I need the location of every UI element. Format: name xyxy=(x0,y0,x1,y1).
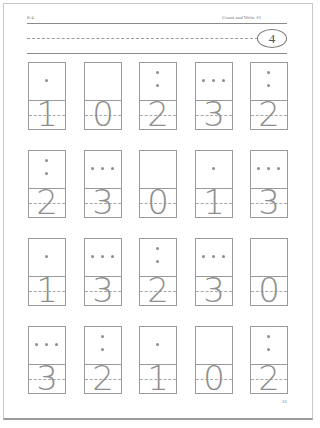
trace-digit: 3 xyxy=(29,365,65,394)
dot-icon xyxy=(45,159,48,162)
count-card: 1 xyxy=(28,62,66,130)
writing-area[interactable]: 0 xyxy=(251,277,287,306)
writing-area[interactable]: 3 xyxy=(196,101,232,130)
trace-digit: 3 xyxy=(85,277,121,306)
writing-area[interactable]: 2 xyxy=(29,189,65,218)
count-card: 0 xyxy=(195,326,233,394)
dot-icon xyxy=(202,255,205,258)
writing-area[interactable]: 1 xyxy=(29,101,65,130)
trace-digit: 3 xyxy=(251,189,287,218)
dot-icon xyxy=(156,71,159,74)
trace-digit: 0 xyxy=(85,101,121,130)
trace-digit: 2 xyxy=(140,277,176,306)
trace-digit: 2 xyxy=(251,101,287,130)
dot-icon xyxy=(156,260,159,263)
writing-area[interactable]: 2 xyxy=(251,365,287,394)
dot-icon xyxy=(111,255,114,258)
count-card: 3 xyxy=(250,150,288,218)
dot-icon xyxy=(101,335,104,338)
dot-area xyxy=(196,151,232,189)
trace-digit: 2 xyxy=(140,101,176,130)
dot-icon xyxy=(101,167,104,170)
writing-area[interactable]: 3 xyxy=(85,189,121,218)
dot-area xyxy=(251,327,287,365)
trace-digit: 2 xyxy=(29,189,65,218)
writing-area[interactable]: 3 xyxy=(29,365,65,394)
writing-area[interactable]: 2 xyxy=(85,365,121,394)
trace-digit: 0 xyxy=(140,189,176,218)
dot-area xyxy=(140,327,176,365)
dot-area xyxy=(85,63,121,101)
trace-digit: 1 xyxy=(196,189,232,218)
dot-area xyxy=(140,239,176,277)
dot-area xyxy=(196,239,232,277)
dot-icon xyxy=(267,167,270,170)
count-card: 2 xyxy=(139,238,177,306)
trace-digit: 2 xyxy=(85,365,121,394)
page-number: 31 xyxy=(282,399,287,404)
writing-area[interactable]: 3 xyxy=(85,277,121,306)
count-card: 3 xyxy=(28,326,66,394)
count-card: 2 xyxy=(250,326,288,394)
dot-icon xyxy=(111,167,114,170)
count-card: 3 xyxy=(195,238,233,306)
dot-area xyxy=(140,151,176,189)
dot-icon xyxy=(101,255,104,258)
header-bottom-rule xyxy=(27,53,287,54)
dot-icon xyxy=(267,84,270,87)
dot-area xyxy=(29,239,65,277)
count-card: 0 xyxy=(139,150,177,218)
dot-icon xyxy=(45,172,48,175)
writing-area[interactable]: 0 xyxy=(140,189,176,218)
writing-area[interactable]: 3 xyxy=(251,189,287,218)
trace-digit: 3 xyxy=(196,101,232,130)
count-card: 2 xyxy=(250,62,288,130)
dot-icon xyxy=(267,348,270,351)
count-card: 2 xyxy=(139,62,177,130)
dot-icon xyxy=(35,343,38,346)
dot-icon xyxy=(212,255,215,258)
dot-area xyxy=(29,151,65,189)
oval-number: 4 xyxy=(269,31,276,47)
trace-digit: 0 xyxy=(251,277,287,306)
count-card: 1 xyxy=(139,326,177,394)
writing-area[interactable]: 1 xyxy=(140,365,176,394)
count-card: 1 xyxy=(195,150,233,218)
writing-area[interactable]: 1 xyxy=(29,277,65,306)
trace-digit: 3 xyxy=(85,189,121,218)
header-dashed-rule xyxy=(27,38,258,39)
section-label: 8-4 xyxy=(27,15,34,20)
count-card: 3 xyxy=(84,150,122,218)
trace-digit: 3 xyxy=(196,277,232,306)
dot-area xyxy=(29,63,65,101)
dot-area xyxy=(85,151,121,189)
dot-icon xyxy=(222,79,225,82)
number-oval: 4 xyxy=(257,29,287,48)
count-card: 3 xyxy=(84,238,122,306)
dot-area xyxy=(251,239,287,277)
dot-icon xyxy=(55,343,58,346)
writing-area[interactable]: 0 xyxy=(85,101,121,130)
writing-area[interactable]: 2 xyxy=(140,277,176,306)
dot-area xyxy=(196,63,232,101)
dot-icon xyxy=(45,343,48,346)
dot-icon xyxy=(156,343,159,346)
dot-icon xyxy=(202,79,205,82)
count-card: 2 xyxy=(84,326,122,394)
writing-area[interactable]: 2 xyxy=(140,101,176,130)
dot-area xyxy=(85,239,121,277)
worksheet-title: Count and Write #1 xyxy=(222,15,261,20)
dot-icon xyxy=(212,79,215,82)
writing-area[interactable]: 1 xyxy=(196,189,232,218)
dot-icon xyxy=(45,255,48,258)
dot-icon xyxy=(257,167,260,170)
writing-area[interactable]: 2 xyxy=(251,101,287,130)
dot-icon xyxy=(222,255,225,258)
dot-icon xyxy=(212,167,215,170)
dot-area xyxy=(196,327,232,365)
count-card: 0 xyxy=(84,62,122,130)
writing-area[interactable]: 3 xyxy=(196,277,232,306)
writing-area[interactable]: 0 xyxy=(196,365,232,394)
trace-digit: 0 xyxy=(196,365,232,394)
dot-icon xyxy=(156,247,159,250)
